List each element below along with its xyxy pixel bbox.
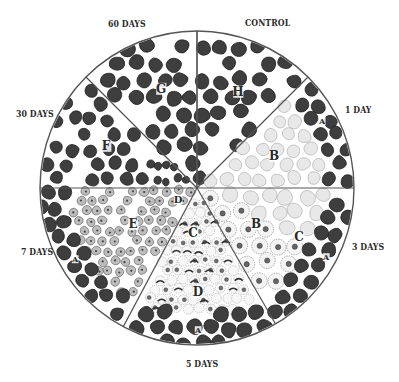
sector-days-60 <box>100 37 200 171</box>
sector-letter-e: E <box>128 217 137 231</box>
label-1-day: 1 DAY <box>345 104 372 115</box>
label-control: CONTROL <box>245 17 290 28</box>
sector-letter-f: F <box>102 139 111 153</box>
label-3-days: 3 DAYS <box>352 241 384 252</box>
sector-letter-d: D <box>193 285 203 299</box>
sector-letter-c: C <box>294 230 304 244</box>
sector-letter-h: H <box>232 85 243 99</box>
sector-letter-b: B <box>269 149 279 163</box>
sector-letter-d: D <box>174 194 183 205</box>
label-7-days: 7 DAYS <box>21 246 53 257</box>
sector-letter-a: A <box>71 254 79 264</box>
label-60-days: 60 DAYS <box>108 18 146 29</box>
label-30-days: 30 DAYS <box>16 108 54 119</box>
sector-layer <box>35 37 355 351</box>
sector-letter-a: A <box>318 116 326 126</box>
sector-letter-a: A <box>322 252 330 262</box>
sector-letter-b: B <box>251 217 261 231</box>
sector-letter-g: G <box>156 82 166 96</box>
diagram-canvas: HABBCACDADEAFG <box>0 0 399 382</box>
sector-letter-a: A <box>194 325 202 335</box>
label-5-days: 5 DAYS <box>186 358 218 369</box>
histology-pie-diagram: HABBCACDADEAFG 60 DAYS CONTROL 30 DAYS 1… <box>0 0 399 382</box>
sector-letter-c: C <box>188 226 198 240</box>
